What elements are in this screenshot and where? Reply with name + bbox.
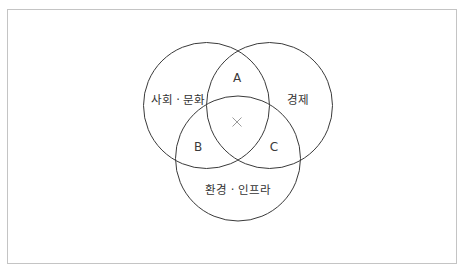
set-label-social-culture: 사회 · 문화 xyxy=(151,93,206,107)
x-mark-icon xyxy=(233,118,242,127)
region-label-c: C xyxy=(270,140,278,154)
region-label-b: B xyxy=(194,140,202,154)
set-label-environment-infrastructure: 환경 · 인프라 xyxy=(205,183,271,197)
circle-environment-infrastructure xyxy=(176,96,301,221)
venn-diagram: 사회 · 문화 경제 환경 · 인프라 A B C xyxy=(0,0,465,273)
set-label-economy: 경제 xyxy=(287,93,309,107)
region-label-a: A xyxy=(233,71,242,85)
